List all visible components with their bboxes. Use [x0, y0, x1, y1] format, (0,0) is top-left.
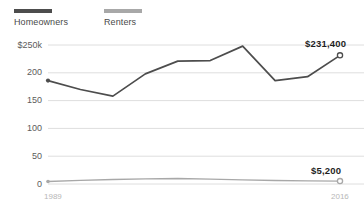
annotation-renters-end: $5,200	[311, 166, 341, 176]
x-axis-tick-1989: 1989	[44, 193, 62, 201]
plot-area	[0, 0, 364, 209]
y-axis-tick-200: 200	[0, 68, 42, 77]
chart-svg	[0, 0, 364, 209]
y-axis-tick-0: 0	[0, 180, 42, 189]
y-axis-tick-150: 150	[0, 96, 42, 105]
y-axis-tick-100: 100	[0, 124, 42, 133]
chart-container: Homeowners Renters $250k 200 150 100 50 …	[0, 0, 364, 209]
y-axis-tick-250k: $250k	[0, 41, 42, 50]
x-axis-tick-2016: 2016	[331, 193, 349, 201]
annotation-homeowners-end: $231,400	[305, 39, 346, 49]
y-axis-tick-50: 50	[0, 152, 42, 161]
